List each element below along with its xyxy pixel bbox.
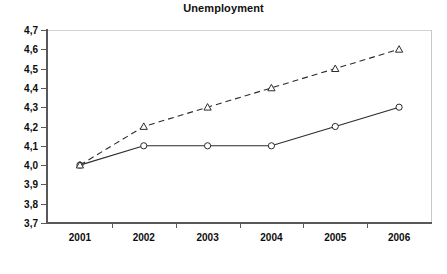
- series-line-dashed-series: [80, 49, 399, 165]
- data-point-marker-triangle: [332, 65, 339, 71]
- data-point-marker-circle: [141, 143, 147, 149]
- plot-series-layer: [0, 0, 447, 274]
- unemployment-line-chart: Unemployment 4,74,64,54,44,34,24,14,03,9…: [0, 0, 447, 274]
- data-point-marker-circle: [332, 123, 338, 129]
- data-point-marker-circle: [396, 104, 402, 110]
- data-point-marker-triangle: [395, 46, 402, 52]
- data-point-marker-circle: [268, 143, 274, 149]
- data-point-marker-circle: [204, 143, 210, 149]
- data-point-marker-triangle: [140, 123, 147, 129]
